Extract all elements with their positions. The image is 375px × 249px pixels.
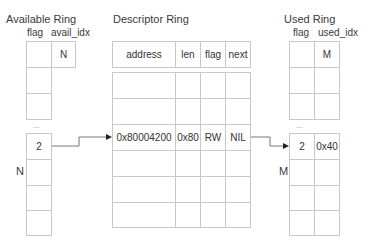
arrow-head-icon (283, 143, 289, 149)
arrow-head-icon (106, 134, 112, 140)
connector-arrows (0, 0, 375, 249)
desc-to-used-arrow (251, 137, 283, 146)
avail-to-desc-arrow (52, 137, 106, 146)
